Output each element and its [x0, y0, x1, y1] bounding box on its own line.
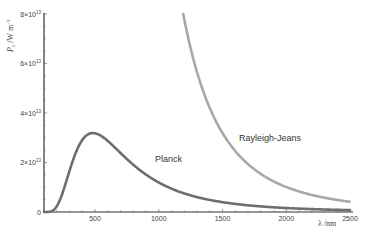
- x-tick-label: 1500: [215, 215, 231, 222]
- x-axis-title: λ /nm: [318, 219, 337, 228]
- svg-text:Pλ /W m−3: Pλ /W m−3: [6, 19, 16, 53]
- curves: [44, 14, 350, 212]
- rayleigh-jeans-curve: [183, 14, 349, 202]
- y-tick-label: 6×1013: [20, 59, 41, 67]
- x-tick-label: 2000: [278, 215, 294, 222]
- x-tick-label: 2500: [342, 215, 358, 222]
- planck-curve: [44, 133, 350, 212]
- chart: 500100015002000250002×10134×10136×10138×…: [0, 0, 370, 235]
- y-axis-title: Pλ /W m−3: [6, 19, 16, 53]
- y-tick-label: 2×1013: [20, 158, 41, 166]
- y-tick-label: 8×1013: [20, 10, 41, 18]
- rayleigh-jeans-label: Rayleigh-Jeans: [239, 133, 302, 143]
- y-tick-label: 0: [37, 209, 41, 216]
- x-tick-label: 1000: [151, 215, 167, 222]
- x-tick-label: 500: [89, 215, 101, 222]
- planck-label: Planck: [155, 154, 183, 164]
- y-tick-label: 4×1013: [20, 109, 41, 117]
